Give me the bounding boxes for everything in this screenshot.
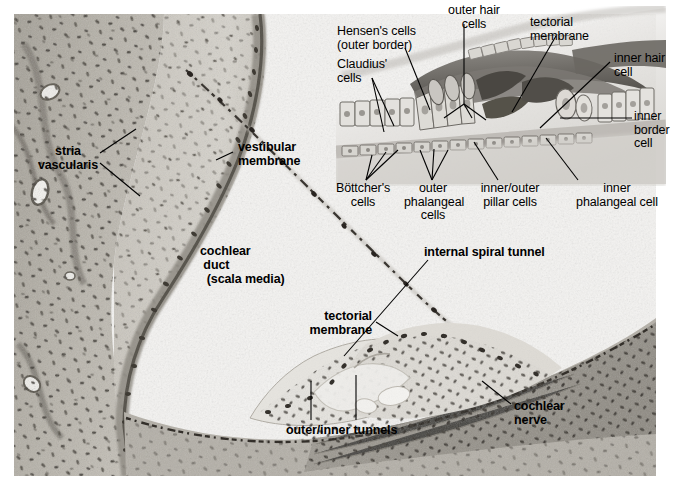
label-cochlear-nerve: cochlear nerve bbox=[514, 399, 565, 427]
label-outer-phalangeal-cells: outer phalangeal cells bbox=[404, 182, 462, 223]
label-tectorial-membrane-inset: tectorial membrane bbox=[530, 16, 589, 43]
label-tectorial-membrane-histology: tectorial membrane bbox=[300, 309, 372, 337]
label-inner-phalangeal-cell: inner phalangeal cell bbox=[568, 182, 666, 209]
label-vestibular-membrane: vestibular membrane bbox=[238, 140, 300, 168]
label-hensens-cells: Hensen's cells (outer border) bbox=[337, 25, 416, 52]
label-inner-border-cell: inner border cell bbox=[634, 110, 670, 151]
label-stria-vascularis: stria vascularis bbox=[30, 144, 106, 172]
label-internal-spiral-tunnel: internal spiral tunnel bbox=[424, 245, 545, 259]
label-outer-inner-tunnels: outer/inner tunnels bbox=[286, 423, 397, 437]
label-outer-hair-cells: outer hair cells bbox=[443, 4, 505, 31]
cochlea-figure: stria vascularis vestibular membrane coc… bbox=[0, 0, 676, 486]
label-inner-hair-cell: inner hair cell bbox=[614, 52, 665, 79]
label-claudius-cells: Claudius' cells bbox=[337, 58, 387, 85]
label-cochlear-duct: cochlear duct (scala media) bbox=[200, 244, 285, 286]
label-inner-outer-pillar-cells: inner/outer pillar cells bbox=[477, 182, 543, 209]
label-bottchers-cells: Böttcher's cells bbox=[335, 182, 391, 209]
